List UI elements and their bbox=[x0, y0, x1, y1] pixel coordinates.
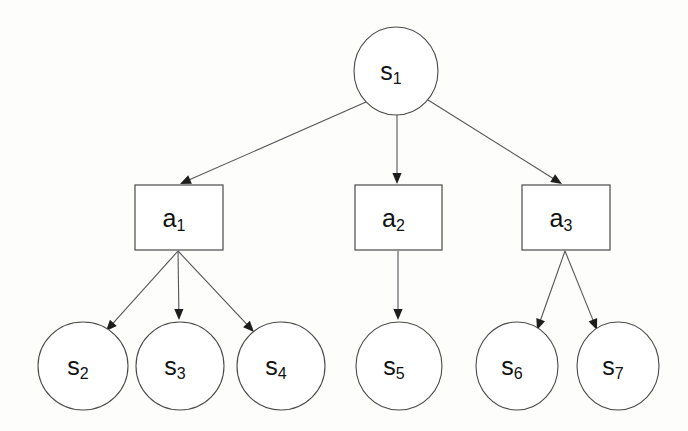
node-label-subscript: 3 bbox=[564, 217, 573, 234]
node-label-subscript: 7 bbox=[615, 365, 624, 382]
edge-line bbox=[428, 100, 554, 179]
node-label-subscript: 3 bbox=[177, 365, 186, 382]
edge-line bbox=[178, 251, 248, 325]
arrowhead-icon bbox=[393, 309, 402, 320]
node-label-base: a bbox=[163, 203, 177, 231]
edge-s1-to-a3 bbox=[428, 100, 562, 184]
node-label-subscript: 6 bbox=[514, 365, 523, 382]
node-label-subscript: 2 bbox=[396, 217, 405, 234]
action-node-a3[interactable]: a3 bbox=[522, 185, 610, 250]
node-label-base: s bbox=[383, 352, 396, 380]
edge-a1-to-s2 bbox=[106, 251, 178, 331]
diagram-canvas: a1a2a3s1s2s3s4s5s6s7 bbox=[0, 0, 688, 431]
node-label-base: a bbox=[382, 203, 396, 231]
edge-s1-to-a1 bbox=[180, 102, 366, 184]
edge-s1-to-a2 bbox=[392, 115, 401, 184]
arrowhead-icon bbox=[174, 309, 183, 320]
state-node-s3[interactable]: s3 bbox=[136, 322, 224, 410]
arrowhead-icon bbox=[392, 173, 401, 184]
state-node-s1[interactable]: s1 bbox=[354, 27, 438, 115]
node-label-base: a bbox=[550, 203, 564, 231]
edge-a2-to-s5 bbox=[393, 251, 402, 320]
node-label-base: s bbox=[164, 352, 177, 380]
edge-line bbox=[178, 251, 179, 311]
edge-line bbox=[112, 251, 178, 324]
node-label-subscript: 1 bbox=[393, 70, 402, 87]
action-node-a1[interactable]: a1 bbox=[135, 185, 223, 250]
state-node-s5[interactable]: s5 bbox=[356, 322, 442, 410]
arrowhead-icon bbox=[550, 174, 562, 184]
state-node-s7[interactable]: s7 bbox=[577, 322, 659, 410]
edge-a1-to-s4 bbox=[178, 251, 254, 332]
node-label-subscript: 5 bbox=[396, 365, 405, 382]
action-node-a2[interactable]: a2 bbox=[355, 185, 442, 250]
node-label-base: s bbox=[501, 352, 514, 380]
edge-line bbox=[540, 251, 565, 322]
node-label-base: s bbox=[265, 352, 278, 380]
node-label-base: s bbox=[602, 352, 615, 380]
node-label-subscript: 1 bbox=[177, 217, 186, 234]
node-label-subscript: 4 bbox=[278, 365, 287, 382]
edge-a1-to-s3 bbox=[174, 251, 183, 320]
node-label-base: s bbox=[67, 352, 80, 380]
edge-line bbox=[188, 102, 366, 180]
search-tree-diagram: a1a2a3s1s2s3s4s5s6s7 bbox=[0, 0, 688, 431]
state-node-s4[interactable]: s4 bbox=[237, 322, 325, 410]
edge-line bbox=[565, 251, 594, 322]
nodes-layer: a1a2a3s1s2s3s4s5s6s7 bbox=[38, 27, 659, 410]
state-node-s6[interactable]: s6 bbox=[476, 322, 558, 410]
node-label-subscript: 2 bbox=[80, 365, 89, 382]
edge-a3-to-s6 bbox=[536, 251, 565, 330]
edge-a3-to-s7 bbox=[565, 251, 597, 330]
state-node-s2[interactable]: s2 bbox=[38, 322, 128, 410]
node-label-base: s bbox=[380, 57, 393, 85]
